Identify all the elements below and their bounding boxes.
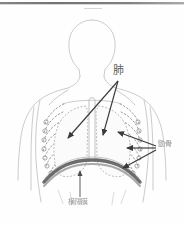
torso-left-side — [36, 100, 41, 202]
anatomy-illustration — [0, 0, 184, 225]
head-outline — [69, 20, 92, 76]
arm-left-inner — [31, 107, 34, 190]
diagram-page: 肺 勯骨 横隔膜 — [0, 0, 184, 225]
label-ribs: 勯骨 — [158, 141, 171, 148]
torso-right-side — [143, 100, 148, 202]
label-diaphragm: 横隔膜 — [68, 199, 88, 206]
neck-outline — [68, 76, 80, 88]
label-lung: 肺 — [113, 65, 124, 76]
